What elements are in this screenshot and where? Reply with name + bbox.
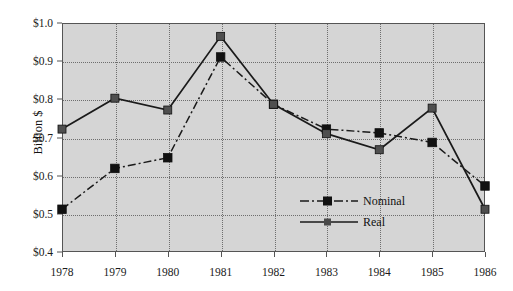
legend-item-nominal: Nominal xyxy=(300,190,405,211)
chart-container: $0.4$0.5$0.6$0.7$0.8$0.9$1.0 Billion $ 1… xyxy=(0,0,513,291)
data-point-marker xyxy=(216,53,225,62)
data-point-marker xyxy=(375,146,383,154)
legend-label-real: Real xyxy=(363,215,385,229)
series-line-nominal xyxy=(62,57,485,209)
legend-swatch-nominal xyxy=(300,194,358,208)
data-point-marker xyxy=(270,100,278,108)
data-point-marker xyxy=(58,205,67,214)
legend-item-real: Real xyxy=(300,211,405,232)
data-point-marker xyxy=(481,205,489,213)
data-point-marker xyxy=(375,129,384,138)
data-point-marker xyxy=(481,182,490,191)
data-point-marker xyxy=(322,130,330,138)
data-point-marker xyxy=(58,125,66,133)
data-point-marker xyxy=(217,32,225,40)
data-point-marker xyxy=(111,164,120,173)
data-series-layer xyxy=(0,0,513,291)
legend-swatch-real xyxy=(300,215,358,229)
series-line-real xyxy=(62,36,485,209)
data-point-marker xyxy=(164,153,173,162)
data-point-marker xyxy=(428,138,437,147)
data-point-marker xyxy=(111,94,119,102)
chart-legend: Nominal Real xyxy=(300,190,405,232)
legend-label-nominal: Nominal xyxy=(363,194,405,208)
data-point-marker xyxy=(164,106,172,114)
data-point-marker xyxy=(428,104,436,112)
